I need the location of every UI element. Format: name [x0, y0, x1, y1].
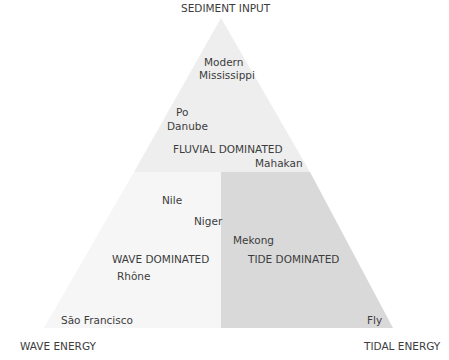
- ternary-triangle: [0, 0, 449, 360]
- vertex-tidal-energy: TIDAL ENERGY: [364, 340, 440, 353]
- delta-danube: Danube: [167, 120, 208, 133]
- delta-niger: Niger: [194, 215, 222, 228]
- vertex-wave-energy: WAVE ENERGY: [20, 340, 96, 353]
- tide-region: [221, 172, 393, 328]
- wave-region: [44, 172, 221, 328]
- region-tide-dominated: TIDE DOMINATED: [248, 253, 339, 266]
- region-fluvial-dominated: FLUVIAL DOMINATED: [173, 143, 283, 156]
- region-wave-dominated: WAVE DOMINATED: [112, 253, 209, 266]
- delta-mahakan: Mahakan: [255, 157, 303, 170]
- vertex-sediment-input: SEDIMENT INPUT: [181, 2, 270, 15]
- delta-sao-francisco: São Francisco: [61, 314, 133, 327]
- delta-nile: Nile: [162, 194, 182, 207]
- delta-po: Po: [176, 106, 188, 119]
- delta-mekong: Mekong: [233, 234, 274, 247]
- delta-rhone: Rhône: [117, 270, 151, 283]
- delta-mississippi: Mississippi: [199, 69, 255, 82]
- delta-modern: Modern: [204, 56, 243, 69]
- delta-fly: Fly: [367, 314, 382, 327]
